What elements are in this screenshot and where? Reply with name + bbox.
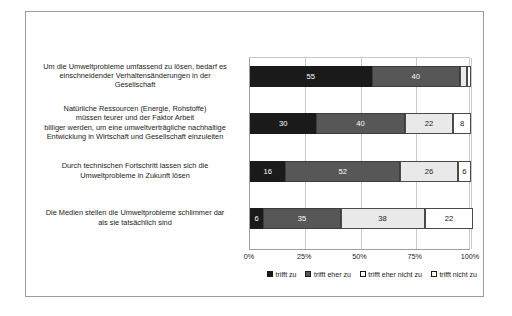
bar-segment: 52 — [285, 161, 400, 182]
bar-value-label: 6 — [255, 214, 259, 223]
category-label-line: billiger werden, um eine umweltverträgli… — [28, 123, 242, 132]
bar-value-label: 22 — [445, 214, 453, 223]
bar-row: 6353822 — [250, 208, 471, 229]
chart-legend: trifft zutrifft eher zutrifft eher nicht… — [249, 268, 477, 280]
legend-item[interactable]: trifft zu — [267, 271, 296, 278]
bar-segment — [467, 66, 471, 87]
legend-label: trifft eher nicht zu — [368, 271, 422, 278]
category-label-line: Die Medien stellen die Umweltprobleme sc… — [28, 208, 242, 217]
legend-item[interactable]: trifft eher zu — [305, 271, 350, 278]
category-label-line: Gesellschaft — [28, 80, 242, 89]
category-label: Natürliche Ressourcen (Energie, Rohstoff… — [28, 104, 242, 141]
legend-label: trifft zu — [276, 271, 297, 278]
bar-value-label: 22 — [425, 119, 433, 128]
bar-segment: 22 — [425, 208, 474, 229]
bar-value-label: 40 — [356, 119, 364, 128]
category-label: Durch technischen Fortschritt lassen sic… — [28, 161, 242, 179]
bar-segment: 6 — [250, 208, 263, 229]
x-tick-label: 100% — [450, 252, 490, 261]
category-label-line: müssen teurer und der Faktor Arbeit — [28, 113, 242, 122]
bar-value-label: 8 — [460, 119, 464, 128]
legend-item[interactable]: trifft nicht zu — [431, 271, 477, 278]
legend-item[interactable]: trifft eher nicht zu — [360, 271, 422, 278]
bar-value-label: 55 — [307, 72, 315, 81]
x-tick-label: 75% — [395, 252, 435, 261]
category-label-line: einschneidender Verhaltensänderungen in … — [28, 71, 242, 80]
bar-row: 5540 — [250, 66, 471, 87]
bar-segment: 26 — [400, 161, 457, 182]
category-label: Um die Umweltprobleme umfassend zu lösen… — [28, 62, 242, 90]
bar-segment: 8 — [453, 113, 471, 134]
category-label: Die Medien stellen die Umweltprobleme sc… — [28, 208, 242, 226]
bar-value-label: 30 — [279, 119, 287, 128]
bar-segment: 35 — [263, 208, 340, 229]
x-tick-label: 25% — [284, 252, 324, 261]
bar-value-label: 38 — [378, 214, 386, 223]
category-label-line: als sie tatsächlich sind — [28, 218, 242, 227]
bar-segment: 30 — [250, 113, 316, 134]
bar-value-label: 52 — [339, 167, 347, 176]
category-label-line: Umweltprobleme in Zukunft lösen — [28, 171, 242, 180]
category-label-line: Natürliche Ressourcen (Energie, Rohstoff… — [28, 104, 242, 113]
category-label-line: Um die Umweltprobleme umfassend zu lösen… — [28, 62, 242, 71]
x-tick-label: 0% — [229, 252, 269, 261]
bar-value-label: 35 — [298, 214, 306, 223]
bar-segment: 40 — [316, 113, 404, 134]
bar-row: 3040228 — [250, 113, 471, 134]
bar-row: 1652266 — [250, 161, 471, 182]
legend-swatch-icon — [267, 271, 273, 277]
bar-segment — [460, 66, 467, 87]
plot-area: 5540304022816522666353822 — [249, 57, 470, 250]
bar-segment: 6 — [458, 161, 471, 182]
bar-segment: 40 — [372, 66, 460, 87]
category-label-line: Entwicklung in Wirtschaft und Gesellscha… — [28, 132, 242, 141]
legend-swatch-icon — [305, 271, 311, 277]
x-tick-label: 50% — [340, 252, 380, 261]
bar-segment: 22 — [405, 113, 454, 134]
legend-swatch-icon — [360, 271, 366, 277]
bar-segment: 55 — [250, 66, 372, 87]
bar-segment: 38 — [341, 208, 425, 229]
stacked-bar-chart: Um die Umweltprobleme umfassend zu lösen… — [0, 0, 512, 316]
legend-label: trifft eher zu — [314, 271, 351, 278]
bar-segment: 16 — [250, 161, 285, 182]
category-label-line: Durch technischen Fortschritt lassen sic… — [28, 161, 242, 170]
legend-label: trifft nicht zu — [439, 271, 477, 278]
bar-value-label: 26 — [425, 167, 433, 176]
legend-swatch-icon — [431, 271, 437, 277]
bar-value-label: 6 — [462, 167, 466, 176]
bar-value-label: 16 — [263, 167, 271, 176]
bar-value-label: 40 — [412, 72, 420, 81]
